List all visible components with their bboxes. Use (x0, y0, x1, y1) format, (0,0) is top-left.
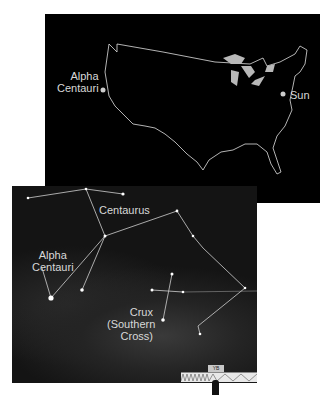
label-alpha-centauri-sky: Alpha Centauri (32, 249, 74, 273)
crux-vertical (163, 274, 172, 320)
us-outline (45, 14, 320, 203)
alpha-centauri-dot (101, 88, 106, 93)
crux-horizontal (152, 290, 183, 292)
position-marker (212, 380, 219, 395)
us-map-panel (45, 14, 320, 203)
beta-centauri-line (82, 236, 105, 290)
label-alpha-centauri-map: Alpha Centauri (57, 70, 99, 94)
label-centaurus: Centaurus (99, 204, 150, 216)
scale-bar (181, 372, 257, 382)
scale-tag: YB (208, 365, 224, 372)
label-crux: Crux (Southern Cross) (107, 306, 153, 342)
great-lakes (223, 54, 275, 86)
us-border (105, 44, 307, 174)
sun-dot (281, 92, 286, 97)
alpha-centauri-star (48, 295, 53, 300)
label-sun: Sun (290, 89, 310, 101)
pointer-line (183, 291, 257, 292)
centaurus-line-top (28, 189, 123, 198)
